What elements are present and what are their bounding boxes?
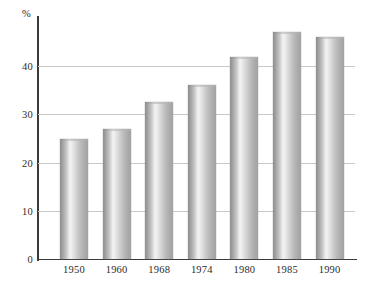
x-axis-tick-label: 1950 xyxy=(63,264,85,275)
bar-cap xyxy=(188,85,216,87)
bar xyxy=(188,85,216,259)
y-axis-tick-label: 20 xyxy=(22,157,33,168)
x-axis-tick-label: 1985 xyxy=(276,264,298,275)
bar-cap xyxy=(230,57,258,59)
bar-cap xyxy=(273,32,301,34)
y-axis-tick-label: 0 xyxy=(27,254,33,265)
x-axis-tick-label: 1980 xyxy=(233,264,255,275)
y-axis-tick-label: 40 xyxy=(22,61,33,72)
bar-cap xyxy=(103,129,131,131)
y-axis-unit-label: % xyxy=(22,8,31,19)
plot-area: 010203040 xyxy=(38,18,355,259)
y-axis-tick-label: 30 xyxy=(22,109,33,120)
x-axis-tick-label: 1960 xyxy=(106,264,128,275)
bar xyxy=(273,32,301,259)
x-axis-tick-label: 1974 xyxy=(191,264,213,275)
x-axis-tick-label: 1968 xyxy=(148,264,170,275)
gridline xyxy=(38,66,355,67)
bar xyxy=(103,129,131,259)
bar-cap xyxy=(316,37,344,39)
x-axis-tick-label: 1990 xyxy=(319,264,341,275)
bar xyxy=(230,57,258,259)
bar-cap xyxy=(60,139,88,141)
bar-chart: % 010203040 1950196019681974198019851990 xyxy=(0,0,391,287)
y-axis-tick-label: 10 xyxy=(22,205,33,216)
bar-cap xyxy=(145,102,173,104)
bar xyxy=(145,102,173,259)
bar xyxy=(60,139,88,260)
bar xyxy=(316,37,344,259)
